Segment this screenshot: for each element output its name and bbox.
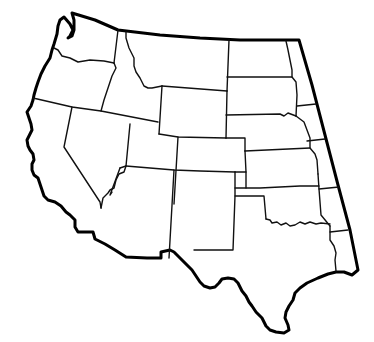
- border-nm-tx: [194, 172, 235, 250]
- western-us-outline-map: [0, 0, 374, 342]
- state-borders: [33, 30, 348, 271]
- border-ne-co: [226, 138, 245, 151]
- border-mt-nd: [227, 40, 229, 91]
- border-sd-ne: [226, 113, 296, 116]
- border-wy-ut-co: [159, 134, 226, 138]
- border-ar-la: [330, 230, 348, 232]
- border-ok-ar: [318, 174, 330, 226]
- border-mo-ar: [319, 187, 339, 189]
- border-ok-tx: [266, 219, 330, 226]
- border-ne-ks: [245, 148, 310, 151]
- border-ks-ok: [235, 186, 319, 188]
- border-id-wy: [159, 86, 162, 134]
- border-az-nm: [169, 170, 174, 258]
- border-wa-id: [114, 30, 118, 63]
- border-mt-wy: [162, 86, 227, 91]
- border-wa-or: [54, 48, 114, 63]
- border-or-ca-nv: [33, 98, 158, 122]
- border-nv-ut: [120, 124, 130, 168]
- border-id-mt: [126, 32, 162, 88]
- border-tx-la: [330, 226, 336, 271]
- border-tx-panhandle: [235, 196, 266, 219]
- border-or-id: [101, 63, 116, 111]
- border-ne-ia-mo: [296, 116, 318, 174]
- border-nv-ca: [64, 107, 101, 208]
- border-co-ks: [235, 151, 246, 172]
- border-nd-mn: [286, 41, 297, 116]
- border-ut-az-co-nm: [126, 166, 235, 172]
- border-mn-ia: [297, 104, 316, 106]
